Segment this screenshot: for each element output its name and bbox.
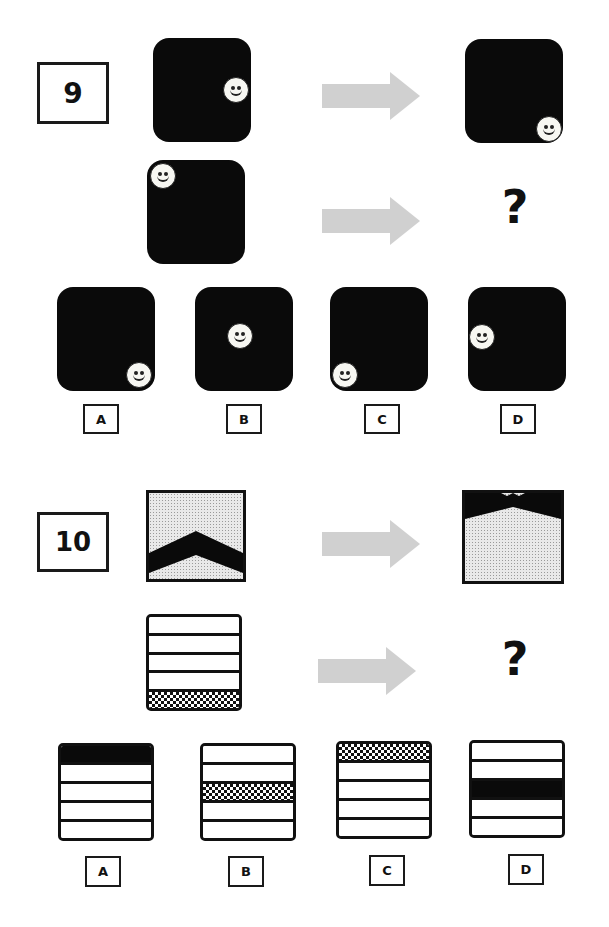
stack-row-checker [149, 692, 239, 708]
question-mark-icon: ? [490, 180, 540, 234]
chevron-icon [465, 493, 561, 581]
p10-option-b-label[interactable]: B [228, 856, 264, 887]
smiley-icon [223, 77, 249, 103]
stack-row-white [339, 782, 429, 801]
stack-row-white [472, 819, 562, 835]
arrow-right-icon [318, 647, 418, 695]
p10-example-output-panel [462, 490, 564, 584]
question-number-10: 10 [37, 512, 109, 572]
p10-option-c-label[interactable]: C [369, 855, 405, 886]
stack-row-white [61, 822, 151, 838]
stack-row-white [61, 765, 151, 784]
stack-row-white [339, 820, 429, 836]
p9-option-a-panel[interactable] [57, 287, 155, 391]
smiley-icon [332, 362, 358, 388]
p10-option-d-stack[interactable] [469, 740, 565, 838]
p10-option-c-stack[interactable] [336, 741, 432, 839]
p9-option-a-label[interactable]: A [83, 404, 119, 434]
question-mark-icon: ? [490, 632, 540, 686]
stack-row-white [61, 803, 151, 822]
question-number-text: 10 [55, 527, 91, 557]
stack-row-white [472, 800, 562, 819]
stack-row-white [472, 743, 562, 762]
p9-example-output-panel [465, 39, 563, 143]
stack-row-checker [339, 744, 429, 763]
arrow-right-icon [322, 72, 422, 120]
stack-row-white [203, 746, 293, 765]
smiley-icon [227, 323, 253, 349]
stack-row-white [61, 784, 151, 803]
stack-row-white [203, 803, 293, 822]
smiley-icon [536, 116, 562, 142]
p9-option-c-label[interactable]: C [364, 404, 400, 434]
stack-row-white [149, 636, 239, 655]
question-number-text: 9 [63, 77, 82, 110]
p10-example-input-panel [146, 490, 246, 582]
p9-option-d-panel[interactable] [468, 287, 566, 391]
arrow-right-icon [322, 197, 422, 245]
stack-row-white [339, 801, 429, 820]
p9-question-input-panel [147, 160, 245, 264]
p10-option-b-stack[interactable] [200, 743, 296, 841]
question-number-9: 9 [37, 62, 109, 124]
p10-option-a-label[interactable]: A [85, 856, 121, 887]
stack-row-white [203, 822, 293, 838]
stack-row-white [203, 765, 293, 784]
chevron-icon [149, 493, 243, 579]
stack-row-white [472, 762, 562, 781]
stack-row-white [149, 655, 239, 674]
smiley-icon [126, 362, 152, 388]
stack-row-white [149, 673, 239, 692]
arrow-right-icon [322, 520, 422, 568]
p9-option-c-panel[interactable] [330, 287, 428, 391]
p10-option-a-stack[interactable] [58, 743, 154, 841]
stack-row-checker [203, 784, 293, 803]
smiley-icon [150, 163, 176, 189]
stack-row-white [339, 763, 429, 782]
p9-option-d-label[interactable]: D [500, 404, 536, 434]
p9-example-input-panel [153, 38, 251, 142]
p9-option-b-label[interactable]: B [226, 404, 262, 434]
p9-option-b-panel[interactable] [195, 287, 293, 391]
stack-row-black [472, 781, 562, 800]
stack-row-white [149, 617, 239, 636]
p10-option-d-label[interactable]: D [508, 854, 544, 885]
stack-row-black [61, 746, 151, 765]
p10-question-input-stack [146, 614, 242, 711]
smiley-icon [469, 324, 495, 350]
